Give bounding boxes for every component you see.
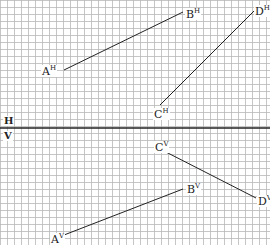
label-c-h: CH: [153, 108, 170, 120]
label-a-h: AH: [41, 65, 57, 77]
segment-ab-vertical: [64, 189, 183, 235]
label-d-h: DH: [254, 5, 270, 17]
segment-ab-horizontal: [64, 12, 183, 70]
label-b-v: BV: [186, 183, 201, 195]
plane-label-h: H: [3, 116, 14, 126]
label-a-v: AV: [50, 233, 65, 245]
segment-cd-horizontal: [160, 10, 255, 105]
segment-cd-vertical: [162, 150, 256, 198]
label-d-v: DV: [257, 195, 270, 207]
projection-lines: [0, 0, 270, 245]
label-b-h: BH: [185, 8, 201, 20]
label-c-v: CV: [154, 141, 169, 153]
plane-label-v: V: [3, 131, 13, 141]
projection-diagram: H V AH BH CH DH AV BV CV DV: [0, 0, 270, 245]
